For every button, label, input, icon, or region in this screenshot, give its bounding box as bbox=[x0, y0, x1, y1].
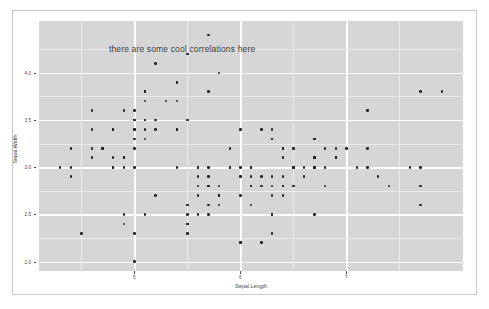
data-point bbox=[239, 166, 242, 169]
data-point bbox=[250, 175, 253, 178]
data-point bbox=[176, 166, 179, 169]
data-point bbox=[154, 194, 157, 197]
data-point bbox=[207, 166, 210, 169]
x-tick-mark bbox=[240, 271, 241, 274]
data-point bbox=[271, 232, 274, 235]
y-tick-mark bbox=[34, 120, 37, 121]
y-tick-mark bbox=[34, 73, 37, 74]
data-point bbox=[260, 241, 263, 244]
data-point bbox=[282, 175, 285, 178]
data-point bbox=[324, 185, 327, 188]
data-point bbox=[218, 204, 221, 207]
data-point bbox=[165, 100, 168, 103]
data-point bbox=[133, 166, 136, 169]
data-point bbox=[91, 156, 94, 159]
data-point bbox=[271, 138, 274, 141]
data-point bbox=[313, 138, 316, 141]
data-point bbox=[197, 175, 200, 178]
data-point bbox=[197, 166, 200, 169]
data-point bbox=[207, 204, 210, 207]
data-point bbox=[154, 128, 157, 131]
data-point bbox=[239, 128, 242, 131]
data-point bbox=[218, 185, 221, 188]
data-point bbox=[271, 185, 274, 188]
data-point bbox=[91, 109, 94, 112]
data-point bbox=[133, 138, 136, 141]
data-point bbox=[229, 166, 232, 169]
data-point bbox=[313, 156, 316, 159]
gridline-major-vertical bbox=[346, 21, 347, 271]
data-point bbox=[271, 128, 274, 131]
data-point bbox=[335, 156, 338, 159]
data-point bbox=[112, 156, 115, 159]
gridline-minor-vertical bbox=[399, 21, 400, 271]
data-point bbox=[282, 156, 285, 159]
y-tick-label: 2.0 bbox=[25, 259, 31, 264]
x-tick-mark bbox=[134, 271, 135, 274]
plot-annotation: there are some cool correlations here bbox=[109, 44, 255, 54]
data-point bbox=[239, 175, 242, 178]
y-tick-label: 3.0 bbox=[25, 165, 31, 170]
data-point bbox=[366, 109, 369, 112]
data-point bbox=[186, 213, 189, 216]
data-point bbox=[70, 166, 73, 169]
data-point bbox=[144, 90, 147, 93]
data-point bbox=[345, 147, 348, 150]
y-axis-title: Sepal.Width bbox=[12, 134, 18, 163]
gridline-major-horizontal bbox=[39, 214, 463, 215]
data-point bbox=[250, 166, 253, 169]
data-point bbox=[176, 128, 179, 131]
data-point bbox=[292, 166, 295, 169]
data-point bbox=[229, 147, 232, 150]
data-point bbox=[176, 81, 179, 84]
data-point bbox=[250, 185, 253, 188]
data-point bbox=[144, 100, 147, 103]
data-point bbox=[419, 90, 422, 93]
data-point bbox=[271, 175, 274, 178]
data-point bbox=[271, 194, 274, 197]
data-point bbox=[91, 147, 94, 150]
data-point bbox=[388, 185, 391, 188]
data-point bbox=[207, 175, 210, 178]
data-point bbox=[324, 147, 327, 150]
data-point bbox=[176, 100, 179, 103]
data-point bbox=[70, 147, 73, 150]
data-point bbox=[282, 147, 285, 150]
data-point bbox=[197, 194, 200, 197]
gridline-major-horizontal bbox=[39, 262, 463, 263]
page-frame: there are some cool correlations here 2.… bbox=[12, 10, 477, 295]
data-point bbox=[377, 175, 380, 178]
data-point bbox=[144, 128, 147, 131]
data-point bbox=[260, 175, 263, 178]
data-point bbox=[123, 223, 126, 226]
data-point bbox=[260, 185, 263, 188]
data-point bbox=[112, 128, 115, 131]
plot-panel: there are some cool correlations here bbox=[39, 21, 463, 271]
data-point bbox=[91, 128, 94, 131]
data-point bbox=[239, 241, 242, 244]
data-point bbox=[123, 156, 126, 159]
data-point bbox=[313, 213, 316, 216]
data-point bbox=[250, 204, 253, 207]
data-point bbox=[70, 175, 73, 178]
gridline-minor-vertical bbox=[293, 21, 294, 271]
data-point bbox=[186, 232, 189, 235]
data-point bbox=[260, 128, 263, 131]
data-point bbox=[197, 185, 200, 188]
x-tick-mark bbox=[346, 271, 347, 274]
x-axis-title: Sepal.Length bbox=[39, 283, 463, 289]
data-point bbox=[207, 90, 210, 93]
y-tick-mark bbox=[34, 167, 37, 168]
data-point bbox=[335, 147, 338, 150]
data-point bbox=[133, 260, 136, 263]
data-point bbox=[133, 128, 136, 131]
data-point bbox=[80, 232, 83, 235]
data-point bbox=[101, 147, 104, 150]
data-point bbox=[292, 147, 295, 150]
y-tick-mark bbox=[34, 262, 37, 263]
data-point bbox=[133, 109, 136, 112]
data-point bbox=[154, 62, 157, 65]
data-point bbox=[441, 90, 444, 93]
data-point bbox=[123, 166, 126, 169]
data-point bbox=[218, 194, 221, 197]
